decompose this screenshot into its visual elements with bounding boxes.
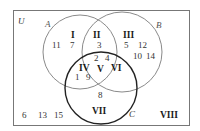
region-vii-element: 8 <box>98 90 103 100</box>
region-ii-element: 3 <box>97 40 102 50</box>
set-b-label: B <box>156 20 162 30</box>
region-viii-element: 13 <box>38 110 48 120</box>
venn-diagram: U A B C I 11 7 II 3 III 5 12 10 14 2 4 I… <box>0 0 200 131</box>
set-a-label: A <box>44 19 51 29</box>
region-viii-element: 6 <box>22 110 27 120</box>
region-iv-element: 1 <box>75 72 80 82</box>
region-viii-element: 15 <box>54 110 64 120</box>
region-vi-label: VI <box>111 63 122 73</box>
region-i-label: I <box>71 30 75 40</box>
region-ii-label: II <box>93 30 101 40</box>
universe-label: U <box>18 16 25 26</box>
region-i-element: 7 <box>70 40 75 50</box>
region-viii-label: VIII <box>160 110 178 120</box>
region-iii-element: 5 <box>124 40 129 50</box>
region-v-element: 2 <box>94 53 99 63</box>
region-iii-element: 12 <box>138 40 147 50</box>
region-vii-label: VII <box>92 106 107 116</box>
region-iii-element: 10 <box>133 51 143 61</box>
region-iii-element: 14 <box>146 51 156 61</box>
set-c-label: C <box>129 109 136 119</box>
region-i-element: 11 <box>52 40 61 50</box>
region-v-element: 4 <box>105 53 110 63</box>
region-iv-element: 9 <box>86 72 91 82</box>
region-iii-label: III <box>123 30 134 40</box>
region-v-label: V <box>97 64 104 74</box>
